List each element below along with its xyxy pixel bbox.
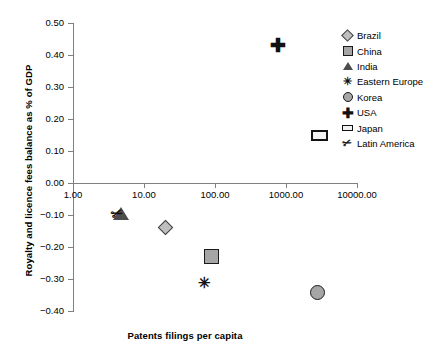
y-tick-label: 0.10 xyxy=(18,146,64,156)
scatter-chart: Royalty and licence fees balance as % of… xyxy=(0,0,438,351)
y-tick-mark xyxy=(68,279,73,280)
x-tick-mark xyxy=(286,183,287,188)
x-tick-mark xyxy=(144,183,145,188)
legend-item-label: Eastern Europe xyxy=(357,76,423,87)
legend-item-label: Latin America xyxy=(357,138,415,149)
legend-item-india[interactable]: India xyxy=(341,59,438,74)
legend-item-china[interactable]: China xyxy=(341,43,438,58)
y-tick-label: −0.40 xyxy=(18,306,64,316)
data-point-latin-america[interactable]: ✂ xyxy=(110,206,124,220)
x-tick-label: 10000.00 xyxy=(322,190,392,200)
data-point-usa[interactable]: ✚ xyxy=(268,36,287,55)
x-tick-mark xyxy=(215,183,216,188)
triangle-marker-icon xyxy=(341,60,354,73)
chart-legend: BrazilChinaIndia✳Eastern EuropeKorea✚USA… xyxy=(341,28,438,151)
legend-item-label: Brazil xyxy=(357,30,381,41)
y-tick-mark xyxy=(68,247,73,248)
legend-item-japan[interactable]: Japan xyxy=(341,120,438,135)
y-tick-label: 0.30 xyxy=(18,82,64,92)
y-tick-mark xyxy=(68,215,73,216)
legend-item-usa[interactable]: ✚USA xyxy=(341,105,438,120)
x-axis-title: Patents filings per capita xyxy=(0,330,370,341)
legend-item-label: China xyxy=(357,46,382,57)
y-axis-line xyxy=(73,23,74,312)
legend-item-label: India xyxy=(357,61,378,72)
y-tick-label: 0.50 xyxy=(18,18,64,28)
legend-item-label: USA xyxy=(357,107,377,118)
data-point-japan[interactable] xyxy=(311,130,328,141)
y-tick-label: −0.30 xyxy=(18,274,64,284)
legend-item-latin-america[interactable]: ✂Latin America xyxy=(341,136,438,151)
legend-item-korea[interactable]: Korea xyxy=(341,90,438,105)
asterisk-marker-icon: ✳ xyxy=(341,75,354,88)
y-tick-mark xyxy=(68,87,73,88)
x-tick-label: 100.00 xyxy=(180,190,250,200)
x-tick-mark xyxy=(357,183,358,188)
y-tick-label: 0.20 xyxy=(18,114,64,124)
y-tick-mark xyxy=(68,151,73,152)
square-marker-icon xyxy=(341,45,354,58)
x-tick-label: 10.00 xyxy=(109,190,179,200)
y-tick-label: −0.20 xyxy=(18,242,64,252)
y-tick-mark xyxy=(68,119,73,120)
x-tick-mark xyxy=(73,183,74,188)
y-tick-label: 0.40 xyxy=(18,50,64,60)
legend-item-brazil[interactable]: Brazil xyxy=(341,28,438,43)
plus-marker-icon: ✚ xyxy=(341,106,354,119)
diamond-marker-icon xyxy=(341,29,354,42)
y-tick-mark xyxy=(68,23,73,24)
y-tick-label: −0.10 xyxy=(18,210,64,220)
legend-item-label: Korea xyxy=(357,92,382,103)
y-tick-mark xyxy=(68,311,73,312)
legend-item-label: Japan xyxy=(357,123,383,134)
y-tick-label: 0.00 xyxy=(18,178,64,188)
data-point-eastern-europe[interactable]: ✳ xyxy=(197,275,212,290)
rect-marker-icon xyxy=(341,122,354,135)
circle-marker-icon xyxy=(341,91,354,104)
x-tick-label: 1000.00 xyxy=(251,190,321,200)
data-point-korea[interactable] xyxy=(310,285,325,300)
legend-item-eastern-europe[interactable]: ✳Eastern Europe xyxy=(341,74,438,89)
slash-marker-icon: ✂ xyxy=(341,137,354,150)
data-point-china[interactable] xyxy=(204,249,219,264)
x-tick-label: 1.00 xyxy=(38,190,108,200)
data-point-brazil[interactable] xyxy=(160,222,171,233)
y-tick-mark xyxy=(68,55,73,56)
